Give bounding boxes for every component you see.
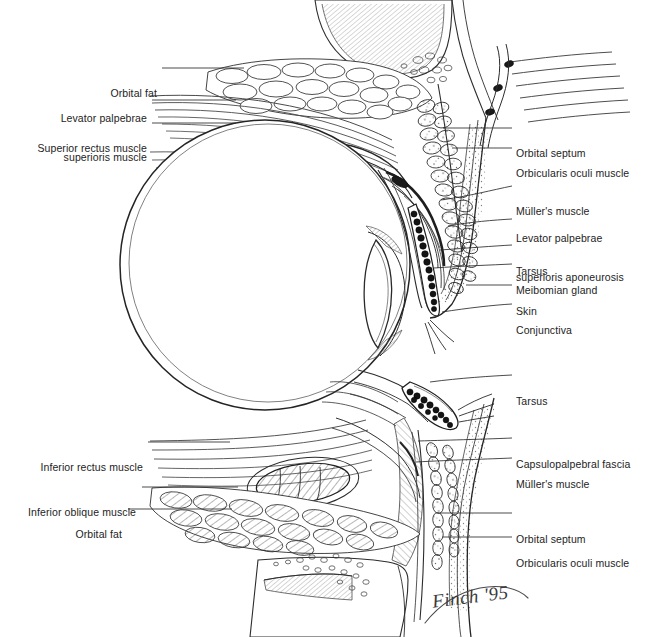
label-orbital-fat-inferior: Orbital fat <box>18 502 122 567</box>
lateral-orbital-wall <box>452 0 498 120</box>
periosteum-inferior <box>398 566 405 637</box>
anatomical-figure: Orbital fat Levator palpebrae superioris… <box>0 0 655 637</box>
label-line: Inferior rectus muscle <box>23 461 143 474</box>
label-line: Conjunctiva <box>516 324 572 337</box>
label-tarsus-inferior: Tarsus <box>516 369 548 434</box>
skin-stipple-lower <box>449 402 496 612</box>
label-conjunctiva: Conjunctiva <box>516 298 572 363</box>
label-line: Tarsus <box>516 395 548 408</box>
label-orbicularis-oculi-muscle-inferior: Orbicularis oculi muscle <box>516 531 629 596</box>
eyelashes-upper <box>425 320 454 354</box>
label-superior-rectus-muscle: Superior rectus muscle <box>23 116 147 181</box>
label-line: Orbital fat <box>18 528 122 541</box>
label-line: Müller's muscle <box>516 478 590 491</box>
label-line: Superior rectus muscle <box>23 142 147 155</box>
label-line: Orbicularis oculi muscle <box>516 557 629 570</box>
orbital-fat-inferior-lobules <box>150 487 420 558</box>
